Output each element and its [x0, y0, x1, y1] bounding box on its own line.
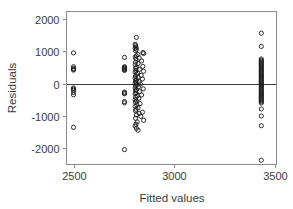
scatter-point — [71, 125, 75, 129]
scatter-point — [71, 51, 75, 55]
y-tick-label: 1000 — [35, 46, 59, 58]
x-axis-ticks — [75, 165, 276, 169]
scatter-point — [122, 148, 126, 152]
y-tick-label: 0 — [53, 79, 59, 91]
scatter-point — [259, 114, 263, 118]
scatter-point — [259, 124, 263, 128]
y-tick-label: -1000 — [31, 111, 59, 123]
x-tick-label: 3500 — [263, 170, 287, 182]
y-axis-title: Residuals — [6, 63, 18, 114]
scatter-point — [122, 55, 126, 59]
y-tick-label: -2000 — [31, 143, 59, 155]
scatter-point — [259, 44, 263, 48]
plot-frame — [67, 12, 277, 165]
scatter-point — [141, 87, 145, 91]
y-tick-label: 2000 — [35, 14, 59, 26]
x-axis-tick-labels: 250030003500 — [62, 170, 287, 182]
scatter-point — [142, 69, 146, 73]
scatter-point — [134, 35, 138, 39]
data-points — [71, 31, 263, 162]
scatter-point — [142, 118, 146, 122]
x-axis-title: Fitted values — [139, 192, 204, 204]
x-tick-label: 2500 — [62, 170, 86, 182]
scatter-point — [141, 64, 145, 68]
y-axis-ticks — [63, 20, 67, 149]
plot-canvas: 200010000-1000-2000 250030003500 Residua… — [0, 0, 293, 209]
residuals-vs-fitted-plot: 200010000-1000-2000 250030003500 Residua… — [0, 0, 293, 209]
scatter-point — [259, 158, 263, 162]
scatter-point — [259, 31, 263, 35]
scatter-point — [259, 107, 263, 111]
x-tick-label: 3000 — [162, 170, 186, 182]
y-axis-tick-labels: 200010000-1000-2000 — [31, 14, 59, 155]
